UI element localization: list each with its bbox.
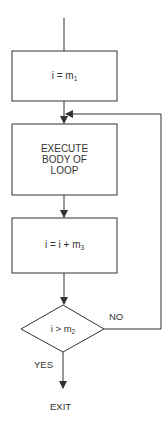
init-label: i = m1 [12,70,117,84]
exit-label: EXIT [50,401,71,412]
init-subscript: 1 [74,75,78,82]
incr-label: i = i + m3 [12,239,117,253]
test-text: i > m [51,323,72,334]
body-label: EXECUTE BODY OF LOOP [12,143,117,176]
test-label: i > m2 [21,323,105,337]
init-text: i = m [52,70,74,81]
incr-text: i = i + m [45,239,81,250]
body-line-1: EXECUTE [12,143,117,154]
test-subscript: 2 [72,328,76,335]
no-label: NO [109,311,123,322]
incr-subscript: 3 [80,244,84,251]
flowchart-canvas [0,0,168,425]
body-line-2: BODY OF [12,154,117,165]
body-line-3: LOOP [12,165,117,176]
yes-label: YES [34,359,53,370]
